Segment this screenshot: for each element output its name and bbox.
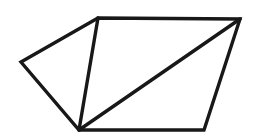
figure-canvas xyxy=(0,0,254,138)
figure-background xyxy=(0,0,254,138)
polygon-figure xyxy=(0,0,254,138)
